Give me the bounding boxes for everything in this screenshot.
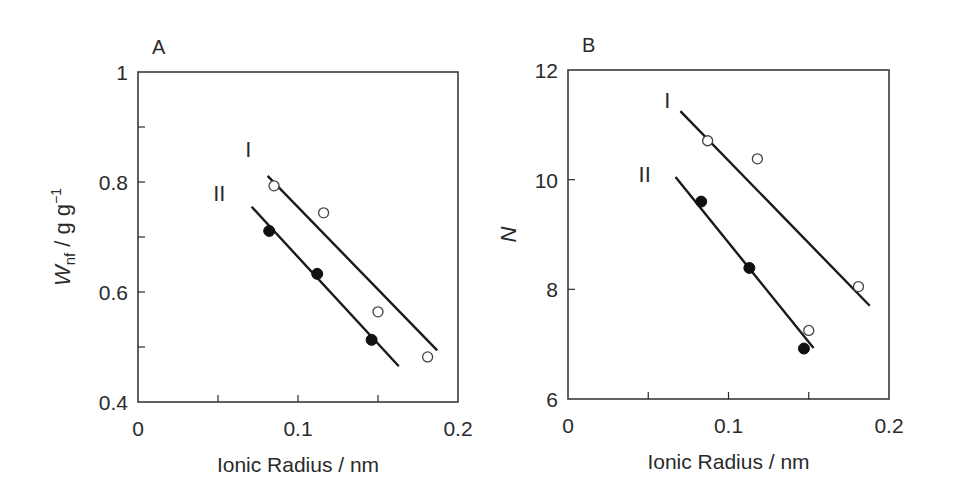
y-tick-label: 0.8 [99, 171, 128, 194]
y-axis-label: Wnf / g g−1 [48, 188, 78, 286]
panel-label: B [582, 34, 595, 56]
open-circle-marker [752, 154, 762, 164]
series-label-ii: II [639, 162, 651, 187]
chart-canvas: A00.10.20.40.60.81Ionic Radius / nmWnf /… [0, 0, 954, 502]
fit-line-i [268, 176, 438, 350]
x-axis-label: Ionic Radius / nm [217, 453, 379, 476]
filled-circle-marker [744, 262, 755, 273]
filled-circle-marker [264, 225, 275, 236]
y-tick-label: 12 [535, 59, 558, 82]
open-circle-marker [319, 208, 329, 218]
y-tick-label: 0.6 [99, 281, 128, 304]
filled-circle-marker [312, 268, 323, 279]
plot-frame [138, 72, 458, 402]
x-tick-label: 0.1 [714, 414, 743, 437]
open-circle-marker [269, 181, 279, 191]
y-tick-label: 6 [546, 388, 558, 411]
panel-label: A [152, 36, 166, 58]
open-circle-marker [804, 325, 814, 335]
x-tick-label: 0 [562, 414, 574, 437]
filled-circle-marker [696, 196, 707, 207]
y-tick-label: 10 [535, 169, 558, 192]
x-tick-label: 0.2 [443, 417, 472, 440]
y-tick-label: 8 [546, 278, 558, 301]
series-label-ii: II [213, 181, 225, 206]
y-tick-label: 0.4 [99, 391, 129, 414]
panel-a: A00.10.20.40.60.81Ionic Radius / nmWnf /… [48, 36, 473, 476]
plot-frame [568, 70, 889, 399]
series-label-i: I [664, 88, 670, 113]
open-circle-marker [373, 307, 383, 317]
panel-b: B00.10.2681012Ionic Radius / nmNIII [496, 34, 904, 473]
series-label-i: I [245, 137, 251, 162]
x-tick-label: 0.2 [874, 414, 903, 437]
filled-circle-marker [798, 343, 809, 354]
open-circle-marker [423, 352, 433, 362]
x-axis-label: Ionic Radius / nm [647, 450, 809, 473]
x-tick-label: 0 [132, 417, 144, 440]
y-axis-label: N [496, 226, 521, 242]
x-tick-label: 0.1 [283, 417, 312, 440]
filled-circle-marker [366, 334, 377, 345]
open-circle-marker [854, 282, 864, 292]
open-circle-marker [703, 136, 713, 146]
y-tick-label: 1 [116, 61, 128, 84]
figure: A00.10.20.40.60.81Ionic Radius / nmWnf /… [0, 0, 954, 502]
